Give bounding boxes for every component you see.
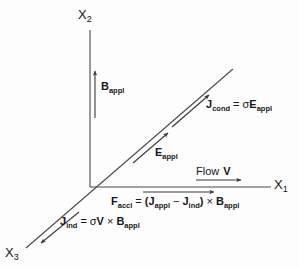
flow-v-symbol: V — [223, 165, 230, 177]
j-cond-subscript: cond — [212, 104, 230, 113]
vector-label-b-appl: Bappl — [101, 81, 124, 92]
f-accl-rhs-subscript: appl — [224, 201, 239, 210]
j-ind-rhs-subscript2: appl — [124, 221, 139, 230]
f-accl-symbol: F — [111, 195, 118, 207]
vector-label-j-cond: Jcond=σEappl — [206, 99, 272, 110]
flow-text: Flow — [196, 165, 219, 177]
e-appl-subscript: appl — [162, 152, 177, 161]
f-accl-minus: − — [170, 195, 182, 207]
j-cond-rhs-symbol: E — [249, 98, 256, 110]
j-ind-subscript: ind — [66, 221, 77, 230]
f-accl-cross: × — [203, 195, 215, 207]
vector-diagram: X2 X1 X3 Bappl Eappl Jcond=σEappl FlowV … — [0, 0, 299, 269]
j-ind-cross: × — [104, 215, 116, 227]
label-flow-v: FlowV — [196, 166, 231, 177]
formula-f-accl: Faccl=(Jappl−Jind)×Bappl — [111, 196, 239, 207]
axis-label-x3-sub: 3 — [14, 252, 19, 262]
j-ind-sigma: σ — [90, 215, 97, 227]
axis-label-x3: X3 — [5, 246, 19, 259]
j-cond-equals: = — [230, 98, 242, 110]
axis-label-x2: X2 — [78, 8, 92, 21]
vector-arrow-j-cond — [172, 95, 209, 127]
f-accl-equals: = — [132, 195, 144, 207]
axis-label-x1-text: X — [274, 177, 283, 192]
axis-label-x2-text: X — [78, 7, 87, 22]
f-accl-term2-subscript: ind — [189, 201, 200, 210]
j-ind-rhs-symbol: V — [97, 215, 104, 227]
formula-j-ind: Jind=σV×Bappl — [60, 216, 140, 227]
f-accl-term2-symbol: J — [182, 195, 188, 207]
axis-label-x2-sub: 2 — [87, 14, 92, 24]
axis-label-x1-sub: 1 — [283, 184, 288, 194]
vector-label-e-appl: Eappl — [155, 147, 178, 158]
axis-label-x3-text: X — [5, 245, 14, 260]
f-accl-term1-subscript: appl — [155, 201, 170, 210]
f-accl-rhs-symbol: B — [216, 195, 224, 207]
axis-label-x1: X1 — [274, 178, 288, 191]
f-accl-subscript: accl — [118, 201, 133, 210]
f-accl-term1-symbol: J — [148, 195, 154, 207]
j-ind-equals: = — [77, 215, 89, 227]
j-cond-rhs-subscript: appl — [257, 104, 272, 113]
b-appl-subscript: appl — [109, 86, 124, 95]
diagram-lines — [0, 0, 299, 269]
b-appl-symbol: B — [101, 80, 109, 92]
